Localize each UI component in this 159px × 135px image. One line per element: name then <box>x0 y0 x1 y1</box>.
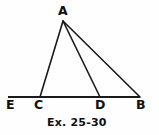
vertex-label-b: B <box>136 99 146 112</box>
vertex-label-a: A <box>58 5 68 18</box>
vertex-label-d: D <box>95 99 105 112</box>
vertex-label-e: E <box>6 99 15 112</box>
segment-side-AB <box>63 21 140 97</box>
geometry-canvas <box>0 0 159 135</box>
geometry-figure: A E C D B Ex. 25-30 <box>0 0 159 135</box>
figure-caption: Ex. 25-30 <box>47 117 107 128</box>
segment-cevian-AD <box>63 21 100 97</box>
segment-side-AC <box>40 21 63 97</box>
vertex-label-c: C <box>34 99 43 112</box>
